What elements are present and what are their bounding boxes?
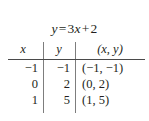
equation-variable: x xyxy=(75,21,81,36)
table-row: −1 −1 (−1, −1) xyxy=(0,60,149,76)
cell-x-value: 0 xyxy=(6,76,38,92)
column-header-y: y xyxy=(45,41,73,57)
value-table: x y (x, y) −1 −1 (−1, −1) 0 2 (0, 2) 1 5… xyxy=(0,40,149,118)
cell-ordered-pair: (−1, −1) xyxy=(82,60,148,76)
table-header-row: x y (x, y) xyxy=(0,41,149,57)
column-header-x: x xyxy=(6,41,40,57)
equation-title: y=3x+2 xyxy=(0,21,149,37)
equation-equals-sign: = xyxy=(58,21,68,36)
cell-x-value: −1 xyxy=(6,60,38,76)
cell-ordered-pair: (1, 5) xyxy=(82,92,148,108)
table-row: 1 5 (1, 5) xyxy=(0,92,149,108)
equation-constant: 2 xyxy=(91,21,98,36)
cell-x-value: 1 xyxy=(6,92,38,108)
linear-equation-table-figure: y=3x+2 x y (x, y) −1 −1 (−1, −1) 0 2 (0,… xyxy=(0,0,149,121)
column-header-ordered-pair: (x, y) xyxy=(76,41,144,57)
cell-y-value: 5 xyxy=(47,92,70,108)
cell-y-value: 2 xyxy=(47,76,70,92)
equation-plus-sign: + xyxy=(81,21,91,36)
equation-lhs-variable: y xyxy=(52,21,58,36)
cell-ordered-pair: (0, 2) xyxy=(82,76,148,92)
table-row: 0 2 (0, 2) xyxy=(0,76,149,92)
cell-y-value: −1 xyxy=(47,60,70,76)
equation-coefficient: 3 xyxy=(68,21,75,36)
